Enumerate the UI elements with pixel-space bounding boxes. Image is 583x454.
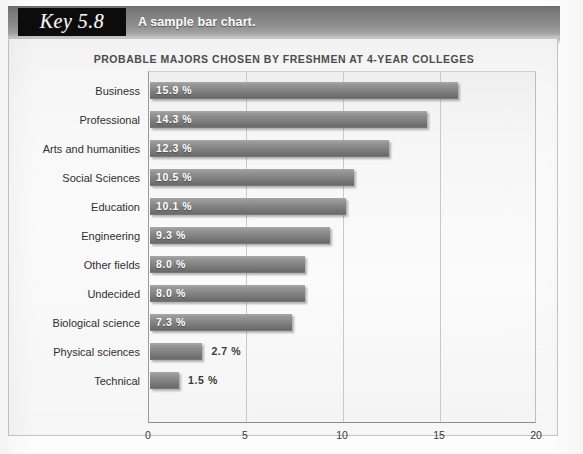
x-tick-label: 0	[145, 429, 151, 441]
x-tick-label: 15	[433, 429, 445, 441]
bar-value-label: 14.3 %	[156, 111, 192, 128]
figure-footnote	[10, 441, 570, 454]
bar	[150, 372, 179, 389]
bar-row: Professional14.3 %	[149, 111, 535, 140]
bar-value-label: 8.0 %	[156, 285, 186, 302]
category-label: Biological science	[53, 314, 140, 332]
x-tick-label: 5	[242, 429, 248, 441]
key-number-block: Key 5.8	[18, 8, 126, 36]
category-label: Physical sciences	[53, 343, 140, 361]
bar-row: Arts and humanities12.3 %	[149, 140, 535, 169]
figure-header-band: Key 5.8 A sample bar chart.	[8, 6, 560, 38]
bar	[150, 343, 202, 360]
bar-value-label: 8.0 %	[156, 256, 186, 273]
bar-row: Undecided8.0 %	[149, 285, 535, 314]
bar-row: Education10.1 %	[149, 198, 535, 227]
category-label: Undecided	[87, 285, 140, 303]
bar-value-label: 10.1 %	[156, 198, 192, 215]
bar-row: Engineering9.3 %	[149, 227, 535, 256]
bar-row: Social Sciences10.5 %	[149, 169, 535, 198]
bar-value-label: 2.7 %	[211, 343, 241, 360]
bar-row: Biological science7.3 %	[149, 314, 535, 343]
x-tick-label: 10	[336, 429, 348, 441]
bar-value-label: 7.3 %	[156, 314, 186, 331]
key-number-label: Key 5.8	[40, 11, 105, 33]
category-label: Other fields	[84, 256, 140, 274]
figure-caption: A sample bar chart.	[138, 6, 255, 38]
x-tick-label: 20	[530, 429, 542, 441]
category-label: Business	[95, 82, 140, 100]
category-label: Social Sciences	[62, 169, 140, 187]
bar-value-label: 1.5 %	[188, 372, 218, 389]
bar-value-label: 15.9 %	[156, 82, 192, 99]
figure-page: Key 5.8 A sample bar chart. PROBABLE MAJ…	[0, 0, 583, 454]
bar-value-label: 9.3 %	[156, 227, 186, 244]
plot-area: Business15.9 %Professional14.3 %Arts and…	[148, 71, 536, 423]
bar-row: Technical1.5 %	[149, 372, 535, 401]
bar-row: Physical sciences2.7 %	[149, 343, 535, 372]
bar-row: Business15.9 %	[149, 82, 535, 111]
bar	[150, 82, 458, 99]
bar-value-label: 12.3 %	[156, 140, 192, 157]
chart-frame: PROBABLE MAJORS CHOSEN BY FRESHMEN AT 4-…	[8, 38, 558, 436]
category-label: Engineering	[81, 227, 140, 245]
category-label: Professional	[79, 111, 140, 129]
bar-row: Other fields8.0 %	[149, 256, 535, 285]
bar-value-label: 10.5 %	[156, 169, 192, 186]
chart-title: PROBABLE MAJORS CHOSEN BY FRESHMEN AT 4-…	[9, 53, 559, 65]
category-label: Education	[91, 198, 140, 216]
category-label: Technical	[94, 372, 140, 390]
category-label: Arts and humanities	[43, 140, 140, 158]
